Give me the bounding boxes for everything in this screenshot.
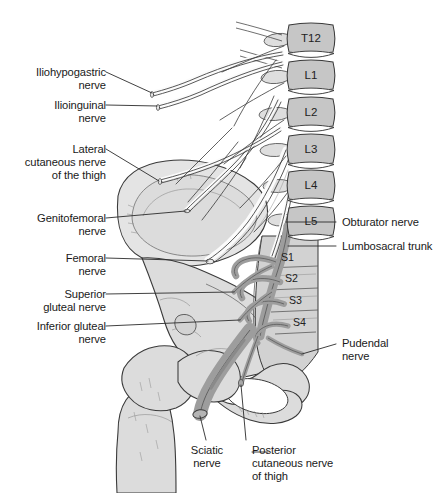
label-iliohypogastric-nerve: Iliohypogastric nerve xyxy=(14,66,106,92)
vertebra-label-l1: L1 xyxy=(289,69,333,81)
sacral-label-s1: S1 xyxy=(281,251,294,263)
intervertebral-disc-l2 xyxy=(288,125,334,131)
vertebra-label-l3: L3 xyxy=(289,143,333,155)
intervertebral-disc-t12 xyxy=(288,51,334,57)
label-inferior-gluteal-nerve: Inferior gluteal nerve xyxy=(14,320,106,346)
vertebral-bodies xyxy=(287,23,335,240)
vertebra-label-l5: L5 xyxy=(289,215,333,227)
label-lateral-cutaneous-nerve-of-the-thigh: Lateral cutaneous nerve of the thigh xyxy=(8,143,106,183)
intervertebral-disc-l4 xyxy=(288,198,334,204)
vertebra-label-t12: T12 xyxy=(289,32,333,44)
label-genitofemoral-nerve: Genitofemoral nerve xyxy=(14,212,106,238)
label-superior-gluteal-nerve: Superior gluteal nerve xyxy=(20,288,106,314)
label-femoral-nerve: Femoral nerve xyxy=(30,252,106,278)
label-posterior-cutaneous-nerve-of-thigh: Posterior cutaneous nerve of thigh xyxy=(252,444,356,484)
intervertebral-disc-l1 xyxy=(288,88,334,94)
sacral-label-s2: S2 xyxy=(285,272,298,284)
anatomy-figure: Iliohypogastric nerve Ilioinguinal nerve… xyxy=(0,0,438,493)
vertebra-label-l4: L4 xyxy=(289,179,333,191)
sacral-label-s3: S3 xyxy=(289,294,302,306)
label-pudendal-nerve: Pudendal nerve xyxy=(342,337,438,363)
label-lumbosacral-trunk: Lumbosacral trunk xyxy=(342,240,438,253)
leader-ilioinguinal xyxy=(106,105,157,106)
intervertebral-disc-l3 xyxy=(288,162,334,168)
leader-iliohypogastric xyxy=(106,72,152,93)
label-obturator-nerve: Obturator nerve xyxy=(342,216,438,229)
label-ilioinguinal-nerve: Ilioinguinal nerve xyxy=(14,99,106,125)
vertebra-label-l2: L2 xyxy=(289,106,333,118)
label-sciatic-nerve: Sciatic nerve xyxy=(178,444,236,470)
ilium-bone xyxy=(117,160,267,266)
sacral-label-s4: S4 xyxy=(293,316,306,328)
